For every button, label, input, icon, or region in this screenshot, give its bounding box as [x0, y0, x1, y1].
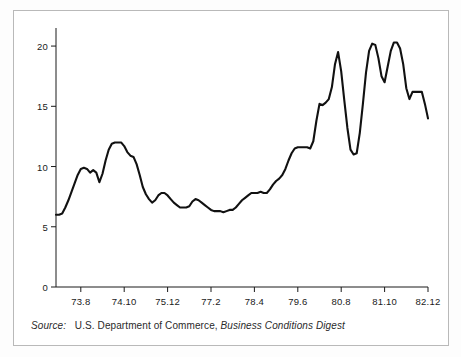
source-note: Source: U.S. Department of Commerce, Bus… [31, 320, 345, 331]
axes-group [51, 28, 428, 292]
y-axis-ticks [51, 46, 56, 287]
y-tick-label: 20 [14, 41, 48, 52]
x-tick-label: 75.12 [155, 296, 180, 307]
x-tick-label: 78.4 [245, 296, 264, 307]
x-tick-label: 81.10 [372, 296, 397, 307]
x-tick-label: 82.12 [416, 296, 441, 307]
source-lead: Source: [31, 320, 66, 331]
x-tick-label: 74.10 [112, 296, 137, 307]
y-tick-label: 10 [14, 161, 48, 172]
data-series-group [56, 42, 428, 214]
y-tick-label: 5 [14, 221, 48, 232]
source-body: U.S. Department of Commerce, [75, 320, 218, 331]
y-tick-label: 0 [14, 282, 48, 293]
plot-area: 05101520 73.874.1075.1277.278.479.680.88… [0, 0, 461, 357]
y-tick-label: 15 [14, 101, 48, 112]
x-axis-ticks [81, 287, 428, 292]
line-series-rate [56, 42, 428, 214]
x-tick-label: 80.8 [332, 296, 351, 307]
source-publication: Business Conditions Digest [221, 320, 345, 331]
x-tick-label: 79.6 [288, 296, 307, 307]
figure-container: 05101520 73.874.1075.1277.278.479.680.88… [0, 0, 461, 357]
x-tick-label: 77.2 [201, 296, 220, 307]
x-tick-label: 73.8 [71, 296, 90, 307]
